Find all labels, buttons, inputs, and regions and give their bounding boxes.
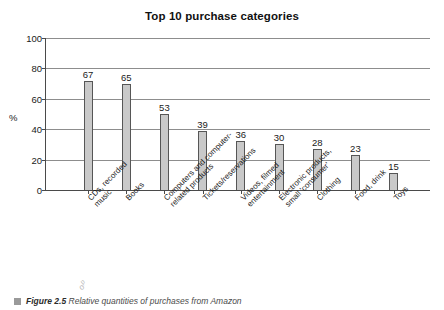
y-tick-mark-0	[42, 190, 46, 191]
bar-value-label: 53	[159, 102, 170, 113]
gridline-100	[46, 38, 430, 39]
y-axis-line	[45, 38, 46, 191]
y-tick-label-40: 40	[8, 124, 42, 135]
bar-value-label: 23	[350, 143, 361, 154]
y-tick-label-100: 100	[8, 33, 42, 44]
figure-container: Top 10 purchase categories % 02040608010…	[0, 0, 444, 310]
bar-value-label: 39	[197, 119, 208, 130]
figure-caption-text: Relative quantities of purchases from Am…	[66, 296, 241, 306]
y-tick-mark-20	[42, 160, 46, 161]
figure-bullet-icon	[14, 298, 21, 305]
chart-title: Top 10 purchase categories	[0, 10, 444, 22]
bar-value-label: 30	[274, 132, 285, 143]
bar-value-label: 67	[83, 69, 94, 80]
figure-caption-label: Figure 2.5	[26, 296, 66, 306]
bar	[160, 114, 169, 191]
bar-value-label: 28	[312, 137, 323, 148]
y-tick-mark-100	[42, 38, 46, 39]
y-tick-label-80: 80	[8, 63, 42, 74]
bar	[84, 81, 93, 191]
y-tick-mark-60	[42, 99, 46, 100]
y-tick-label-60: 60	[8, 93, 42, 104]
bar	[389, 173, 398, 191]
gridline-80	[46, 68, 430, 69]
y-tick-mark-40	[42, 129, 46, 130]
bar-value-label: 65	[121, 72, 132, 83]
x-axis-ticks	[0, 190, 444, 196]
gridline-60	[46, 99, 430, 100]
bar	[351, 155, 360, 191]
y-tick-mark-80	[42, 68, 46, 69]
y-axis-tick-labels: 020406080100	[4, 38, 42, 190]
y-tick-label-20: 20	[8, 154, 42, 165]
bar-value-label: 15	[388, 161, 399, 172]
scan-artifact: op	[75, 278, 89, 292]
figure-caption: Figure 2.5 Relative quantities of purcha…	[14, 296, 444, 307]
